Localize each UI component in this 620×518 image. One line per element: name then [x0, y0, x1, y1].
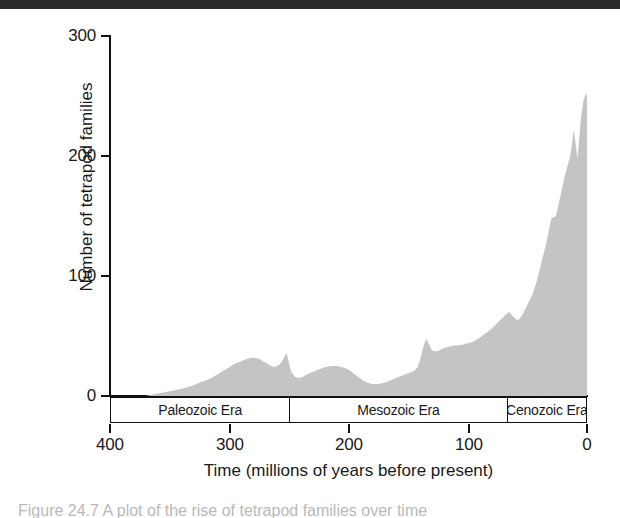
x-tick-0: [586, 424, 588, 433]
y-tick-0: [101, 395, 109, 397]
x-tick-label-300: 300: [200, 436, 260, 454]
x-tick-label-0: 0: [557, 436, 617, 454]
x-tick-100: [468, 424, 470, 433]
x-tick-label-400: 400: [80, 436, 140, 454]
x-tick-label-200: 200: [319, 436, 379, 454]
y-tick-200: [101, 155, 109, 157]
figure-caption: Figure 24.7 A plot of the rise of tetrap…: [18, 502, 602, 518]
x-axis-title: Time (millions of years before present): [110, 462, 587, 480]
y-tick-label-0-wrap: 0: [46, 387, 96, 404]
x-tick-400: [109, 424, 111, 433]
y-axis-title: Number of tetrapod families: [78, 22, 96, 352]
era-label-paleozoic: Paleozoic Era: [158, 403, 242, 418]
tetrapod-families-figure: 300 200 100 0 400 300 200 100 0 Number o…: [0, 0, 620, 518]
x-tick-label-100: 100: [439, 436, 499, 454]
x-tick-300: [229, 424, 231, 433]
era-label-mesozoic: Mesozoic Era: [357, 403, 439, 418]
era-cell-paleozoic: Paleozoic Era: [111, 398, 290, 422]
era-cell-cenozoic: Cenozoic Era: [508, 398, 586, 422]
tetrapod-area-series: [110, 36, 587, 396]
area-fill-path: [110, 94, 587, 396]
era-label-cenozoic: Cenozoic Era: [508, 403, 586, 418]
plot-area: [110, 36, 587, 396]
y-tick-100: [101, 275, 109, 277]
y-tick-label-0: 0: [50, 387, 96, 404]
x-tick-200: [348, 424, 350, 433]
y-tick-300: [101, 35, 109, 37]
era-cell-mesozoic: Mesozoic Era: [290, 398, 507, 422]
geologic-era-strip: Paleozoic Era Mesozoic Era Cenozoic Era: [110, 397, 587, 423]
